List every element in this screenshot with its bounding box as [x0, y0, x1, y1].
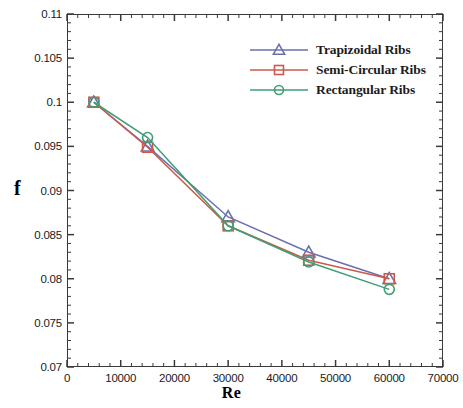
- y-tick-label: 0.11: [41, 8, 62, 20]
- x-tick-label: 50000: [320, 372, 351, 384]
- x-tick-label: 0: [64, 372, 70, 384]
- y-tick-label: 0.1: [47, 96, 62, 108]
- x-tick-label: 70000: [428, 372, 459, 384]
- legend-item-rectangular-ribs: Rectangular Ribs: [248, 81, 426, 99]
- legend-swatch-square-icon: [248, 61, 310, 79]
- x-tick-label: 30000: [213, 372, 244, 384]
- legend-swatch-triangle-icon: [248, 41, 310, 59]
- legend-label: Semi-Circular Ribs: [316, 62, 426, 78]
- y-tick-label: 0.085: [34, 229, 62, 241]
- chart-legend: Trapizoidal Ribs Semi-Circular Ribs Rect…: [248, 41, 426, 99]
- x-tick-label: 20000: [159, 372, 190, 384]
- y-tick-label: 0.075: [34, 317, 62, 329]
- legend-item-semi-circular-ribs: Semi-Circular Ribs: [248, 61, 426, 79]
- chart-figure: f Re 0.070.0750.080.0850.090.0950.10.105…: [0, 0, 463, 408]
- legend-swatch-circle-icon: [248, 81, 310, 99]
- x-tick-label: 40000: [266, 372, 297, 384]
- y-tick-label: 0.105: [34, 52, 62, 64]
- y-tick-label: 0.095: [34, 140, 62, 152]
- legend-item-trapizoidal-ribs: Trapizoidal Ribs: [248, 41, 426, 59]
- x-tick-label: 10000: [105, 372, 136, 384]
- legend-label: Rectangular Ribs: [316, 82, 415, 98]
- x-tick-label: 60000: [374, 372, 405, 384]
- y-tick-label: 0.09: [40, 185, 62, 197]
- y-tick-label: 0.08: [40, 273, 62, 285]
- data-series: [88, 96, 396, 294]
- y-tick-label: 0.07: [40, 361, 62, 373]
- legend-label: Trapizoidal Ribs: [316, 42, 411, 58]
